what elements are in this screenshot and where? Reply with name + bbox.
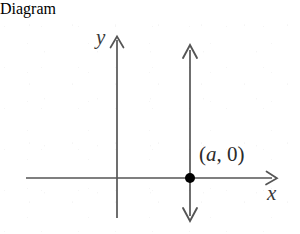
point-label-variable: a bbox=[206, 142, 217, 166]
point-label-suffix: , 0) bbox=[217, 142, 245, 166]
point-label: (a, 0) bbox=[199, 144, 245, 165]
coordinate-plane-figure: y x (a, 0) bbox=[0, 18, 300, 234]
plotted-point-a-zero bbox=[185, 173, 195, 183]
diagram-canvas bbox=[0, 18, 300, 234]
point-label-prefix: ( bbox=[199, 142, 206, 166]
x-axis-label: x bbox=[267, 183, 276, 204]
y-axis-label: y bbox=[96, 27, 105, 48]
